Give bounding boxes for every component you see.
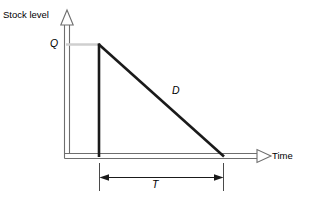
t-dimension: [100, 163, 224, 191]
stock-level-diagram: Stock level Time Q D T: [0, 0, 309, 198]
t-arrowhead-left-icon: [100, 174, 110, 181]
x-axis-arrowhead-icon: [257, 150, 271, 163]
stock-depletion-triangle: [98, 44, 224, 158]
t-arrowhead-right-icon: [214, 174, 224, 181]
demand-rate-label: D: [172, 85, 180, 96]
x-axis-label: Time: [272, 151, 293, 161]
cycle-time-label: T: [152, 179, 158, 190]
demand-line: [98, 44, 224, 157]
x-axis: [65, 150, 272, 163]
order-quantity-label: Q: [50, 38, 58, 49]
y-axis-arrowhead-icon: [61, 10, 73, 25]
diagram-canvas: [0, 0, 309, 198]
y-axis: [61, 10, 73, 159]
y-axis-label: Stock level: [3, 10, 49, 20]
